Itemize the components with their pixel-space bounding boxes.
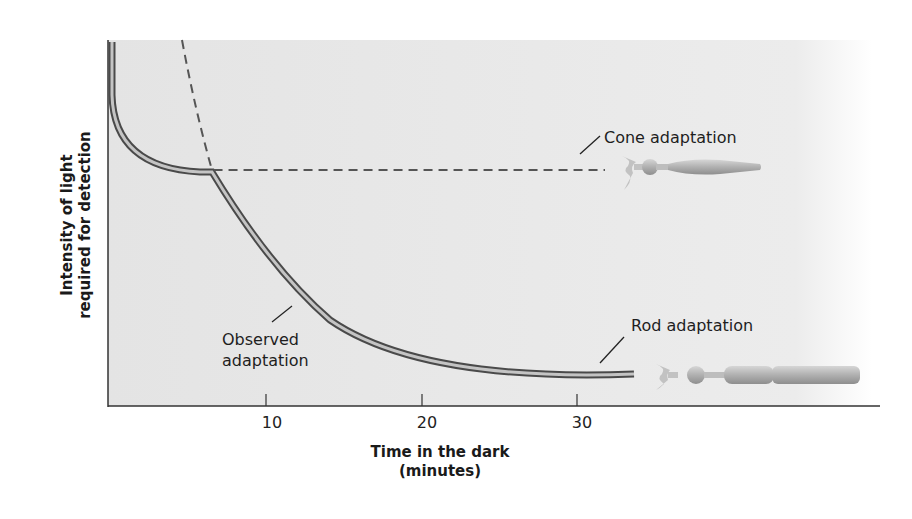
chart-figure — [0, 0, 912, 519]
observed-adaptation-label: Observed adaptation — [222, 329, 309, 371]
x-axis-title-line-1: Time in the dark — [360, 443, 520, 462]
cone-adaptation-label: Cone adaptation — [604, 128, 737, 147]
y-axis-title-line-2: required for detection — [76, 131, 94, 319]
observed-label-line-1: Observed — [222, 329, 309, 350]
x-tick-label-20: 20 — [417, 413, 437, 432]
y-axis-title: Intensity of light required for detectio… — [58, 131, 94, 319]
y-axis-title-line-1: Intensity of light — [58, 131, 76, 319]
x-axis-title-line-2: (minutes) — [360, 462, 520, 481]
x-axis-title: Time in the dark (minutes) — [360, 443, 520, 481]
x-tick-label-30: 30 — [572, 413, 592, 432]
rod-adaptation-label: Rod adaptation — [631, 316, 753, 335]
observed-label-line-2: adaptation — [222, 350, 309, 371]
x-tick-label-10: 10 — [262, 413, 282, 432]
